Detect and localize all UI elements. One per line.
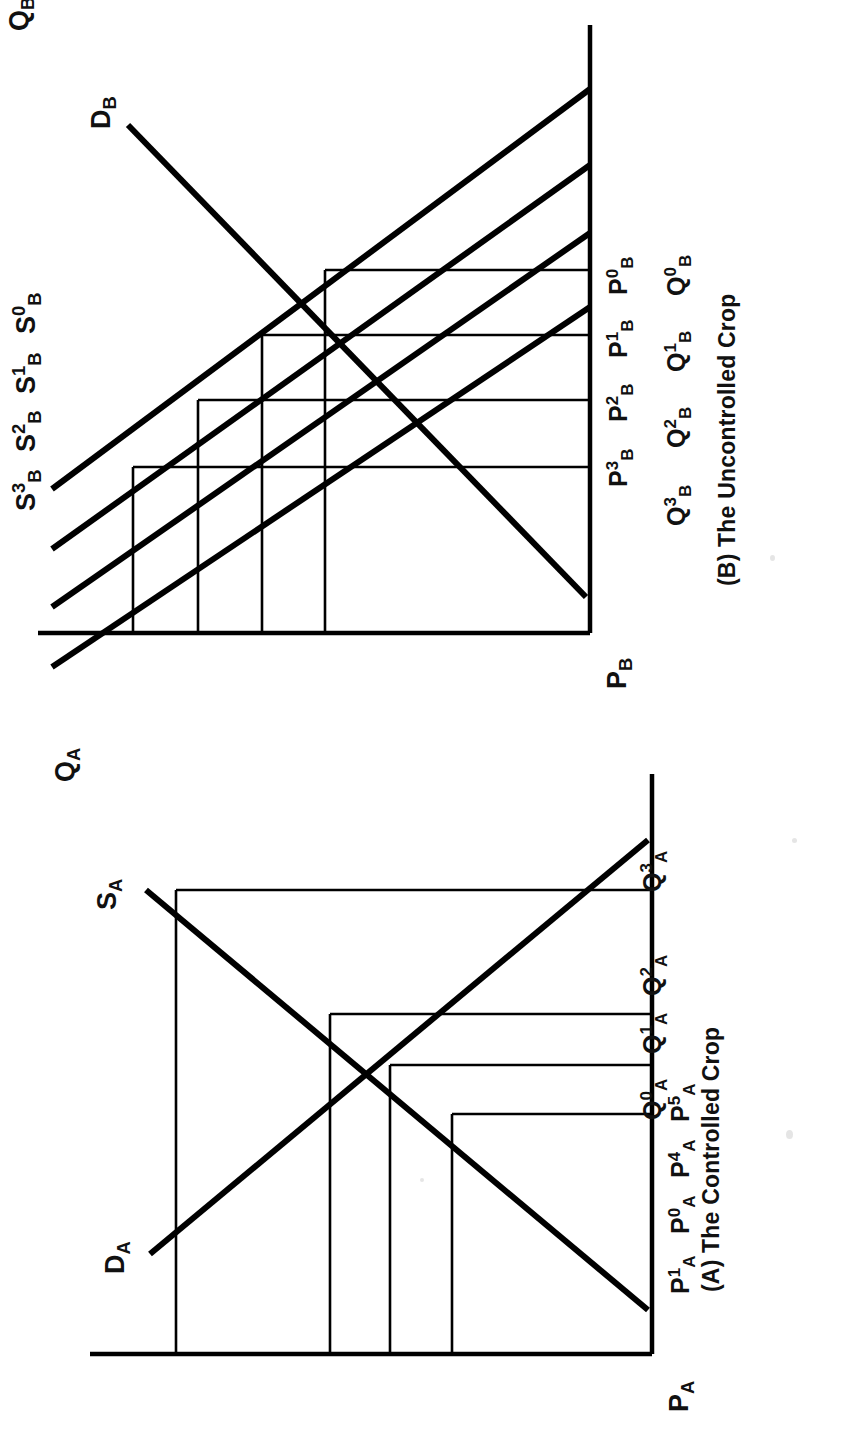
panel-a-quantity-axis-label: QA bbox=[52, 748, 84, 782]
panel-b-supply-label-3: S3B bbox=[10, 470, 45, 512]
panel-a-price-tick-4: P4A bbox=[666, 1140, 698, 1178]
panel-b-supply-label-0: S0B bbox=[10, 293, 45, 335]
panel-a-quantity-tick-label-0: Q0A bbox=[638, 1079, 670, 1120]
panel-b-price-tick-2: P2B bbox=[604, 384, 636, 422]
panel-a-supply-label: SA bbox=[94, 879, 126, 910]
panel-a-demand-label: DA bbox=[102, 1241, 134, 1274]
scan-speck bbox=[420, 1178, 424, 1182]
panel-b-supply-label-2: S2B bbox=[10, 411, 45, 453]
panel-b-quantity-tick-3: . bbox=[600, 490, 625, 497]
panel-b-quantity-tick-label-1: Q1B bbox=[662, 331, 694, 372]
panel-a-quantity-tick-label-2: Q2A bbox=[638, 955, 670, 996]
panel-b-price-axis-label: PB bbox=[604, 658, 636, 689]
scan-speck bbox=[792, 838, 797, 843]
panel-a-quantity-tick-label-1: Q1A bbox=[638, 1013, 670, 1054]
panel-b-quantity-tick-label-2: Q2B bbox=[662, 407, 694, 448]
panel-a-quantity-tick-label-3: Q3A bbox=[638, 851, 670, 892]
panel-b-price-tick-3: P3B bbox=[604, 449, 636, 487]
panel-b-uncontrolled-crop: S3B S2B S1B S0B DB PB QB P3B P2B P1B bbox=[0, 0, 725, 725]
panel-b-quantity-tick-label-0: Q0B bbox=[662, 255, 694, 296]
panel-a-caption: (A) The Controlled Crop bbox=[700, 1027, 723, 1292]
panel-b-caption: (B) The Uncontrolled Crop bbox=[716, 294, 739, 586]
panel-b-quantity-tick-label-3: Q3B bbox=[662, 485, 694, 526]
panel-b-demand-label: DB bbox=[88, 96, 120, 129]
panel-a-price-axis-label: PA bbox=[666, 1381, 698, 1412]
panel-b-quantity-tick-0-anchor: . bbox=[600, 284, 625, 291]
panel-a-price-tick-1: P1A bbox=[666, 1256, 698, 1294]
scan-speck bbox=[786, 1130, 793, 1139]
panel-b-supply-label-1: S1B bbox=[10, 353, 45, 395]
panel-a-supply-curve bbox=[146, 890, 648, 1310]
panel-a-price-tick-0: P0A bbox=[666, 1196, 698, 1234]
figure-page: S3B S2B S1B S0B DB PB QB P3B P2B P1B bbox=[0, 0, 841, 1450]
panel-b-quantity-axis-label: QB bbox=[6, 0, 38, 31]
scan-speck bbox=[770, 555, 775, 561]
panel-a-demand-curve bbox=[150, 840, 648, 1254]
panel-b-price-tick-1: P1B bbox=[604, 320, 636, 358]
